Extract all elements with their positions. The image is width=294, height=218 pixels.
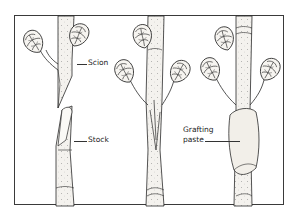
pasted-graft	[197, 16, 283, 206]
grafting-paste-label-line2: paste	[183, 136, 204, 145]
scion-twig	[20, 16, 92, 108]
grafting-paste-label-line1: Grafting	[183, 126, 214, 135]
inserted-graft	[111, 16, 193, 206]
scion-leader-line	[77, 64, 87, 65]
stock-leader-line	[74, 141, 87, 142]
scion-label: Scion	[88, 59, 108, 68]
stock-label: Stock	[88, 136, 109, 145]
grafting-paste-leader-line	[205, 141, 240, 142]
grafting-illustration	[0, 0, 294, 218]
stock-twig	[56, 106, 74, 206]
